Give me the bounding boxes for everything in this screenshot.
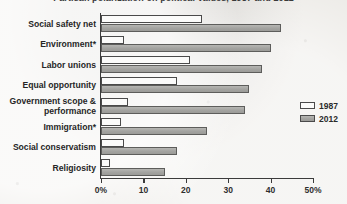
legend-item: 2012 (300, 113, 346, 124)
x-axis-tick-label: 20 (181, 185, 190, 195)
x-axis-tick (101, 179, 102, 183)
bar-1987 (101, 15, 202, 23)
chart-category-row: Environment* (101, 34, 313, 55)
bar-2012 (101, 106, 245, 114)
chart-category-row: Social safety net (101, 13, 313, 34)
bar-2012 (101, 65, 262, 73)
category-label: Environment* (0, 40, 96, 50)
legend-label: 2012 (319, 114, 338, 124)
chart-category-row: Religiosity (101, 157, 313, 178)
category-label: Equal opportunity (0, 81, 96, 91)
bar-1987 (101, 77, 177, 85)
category-label: Social conservatism (0, 143, 96, 153)
x-axis-tick-label: 10 (139, 185, 148, 195)
chart-category-row: Government scope & performance (101, 96, 313, 117)
category-label: Religiosity (0, 164, 96, 174)
x-axis-tick-label: 40 (266, 185, 275, 195)
category-label: Labor unions (0, 61, 96, 71)
bar-2012 (101, 85, 249, 93)
chart-category-row: Equal opportunity (101, 75, 313, 96)
bar-chart: Partisan polarization on political value… (0, 0, 347, 204)
chart-title: Partisan polarization on political value… (0, 0, 347, 3)
bar-2012 (101, 127, 207, 135)
legend-label: 1987 (319, 101, 338, 111)
x-axis-tick (271, 179, 272, 183)
legend-swatch-icon (300, 102, 315, 109)
bar-1987 (101, 139, 124, 147)
chart-legend: 19872012 (300, 100, 346, 126)
category-label: Government scope & performance (0, 97, 96, 116)
chart-category-row: Labor unions (101, 54, 313, 75)
bar-2012 (101, 44, 271, 52)
chart-category-row: Immigration* (101, 116, 313, 137)
category-label: Immigration* (0, 123, 96, 133)
chart-category-row: Social conservatism (101, 137, 313, 158)
x-axis-tick-label: 0% (95, 185, 107, 195)
x-axis-tick (186, 179, 187, 183)
legend-swatch-icon (300, 115, 315, 122)
x-axis-tick-label: 30 (223, 185, 232, 195)
bar-1987 (101, 159, 110, 167)
bar-2012 (101, 147, 177, 155)
plot-area: Social safety netEnvironment*Labor union… (101, 13, 313, 178)
bar-2012 (101, 24, 281, 32)
x-axis-tick-label: 50% (304, 185, 321, 195)
bar-1987 (101, 36, 124, 44)
x-axis-tick (143, 179, 144, 183)
category-label: Social safety net (0, 20, 96, 30)
bar-1987 (101, 56, 190, 64)
bar-2012 (101, 168, 165, 176)
x-axis-tick (313, 179, 314, 183)
legend-item: 1987 (300, 100, 346, 111)
bar-1987 (101, 118, 121, 126)
x-axis-tick (228, 179, 229, 183)
x-axis-line (100, 178, 314, 179)
bar-1987 (101, 98, 128, 106)
